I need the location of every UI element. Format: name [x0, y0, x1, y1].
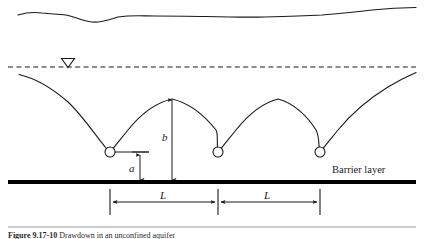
- dimension-a-label: a: [129, 163, 135, 174]
- dimension-b-label: b: [162, 132, 168, 143]
- figure-caption-text: Drawdown in an unconfined aquifer: [59, 231, 175, 239]
- water-table-triangle-icon: [62, 59, 75, 68]
- aquifer-diagram: [0, 0, 425, 239]
- figure-caption-number: Figure 9.17-10: [8, 231, 57, 239]
- figure-caption: Figure 9.17-10 Drawdown in an unconfined…: [8, 231, 175, 239]
- well-2: [213, 147, 223, 157]
- ground-surface: [18, 8, 416, 23]
- spacing-L-right-label: L: [264, 190, 270, 201]
- drawdown-curve: [19, 73, 416, 153]
- well-3: [315, 147, 325, 157]
- barrier-layer-label: Barrier layer: [332, 165, 385, 176]
- well-1: [105, 147, 115, 157]
- figure-container: Barrier layer a b L L Figure 9.17-10 Dra…: [0, 0, 425, 239]
- spacing-L-left-label: L: [160, 190, 166, 201]
